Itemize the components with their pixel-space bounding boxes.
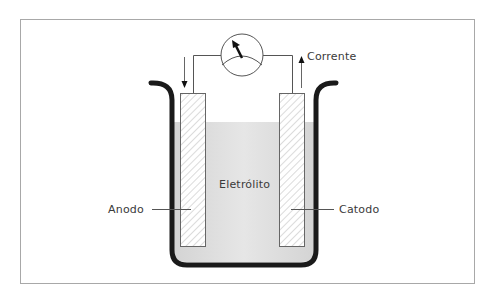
wire-right [263, 56, 293, 94]
electrolyte-label: Eletrólito [219, 179, 270, 190]
anode-electrode [181, 94, 206, 247]
current-label: Corrente [307, 51, 356, 62]
arrow-down-icon [182, 57, 188, 88]
arrow-up-icon [299, 56, 305, 88]
cathode-electrode [280, 94, 305, 247]
wire-left [194, 56, 222, 94]
anode-label: Anodo [108, 204, 144, 215]
ammeter-icon [221, 34, 263, 76]
cathode-label: Catodo [339, 204, 379, 215]
electrolytic-cell-diagram [0, 0, 483, 299]
